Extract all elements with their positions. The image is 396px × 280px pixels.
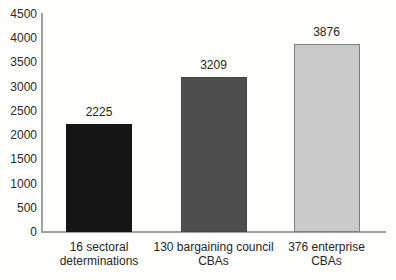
category-label-line: 376 enterprise xyxy=(257,240,396,254)
bar-1 xyxy=(66,124,132,232)
y-tick-label: 3500 xyxy=(0,56,37,68)
bar-chart: 050010001500200025003000350040004500 222… xyxy=(0,0,396,280)
y-tick-label: 3000 xyxy=(0,81,37,93)
bar-value-label: 3209 xyxy=(174,58,254,72)
y-tick-label: 2500 xyxy=(0,105,37,117)
bar-2 xyxy=(181,77,247,232)
bar-3 xyxy=(294,44,360,232)
y-tick-label: 0 xyxy=(0,226,37,238)
bar-value-label: 2225 xyxy=(59,105,139,119)
category-label: 376 enterpriseCBAs xyxy=(257,240,396,268)
y-tick-label: 500 xyxy=(0,202,37,214)
category-label-line: CBAs xyxy=(257,254,396,268)
y-tick-label: 1500 xyxy=(0,153,37,165)
bar-value-label: 3876 xyxy=(287,25,367,39)
y-tick-label: 4000 xyxy=(0,32,37,44)
y-tick-label: 1000 xyxy=(0,178,37,190)
y-tick-label: 2000 xyxy=(0,129,37,141)
y-axis-line xyxy=(41,13,43,233)
y-tick-label: 4500 xyxy=(0,8,37,20)
